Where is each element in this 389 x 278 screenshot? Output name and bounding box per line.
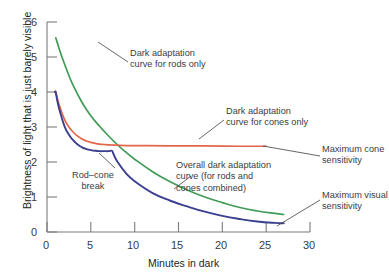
x-tick-label-20: 20 xyxy=(215,239,227,251)
annotation-rod-cone-break: Rod–cone break xyxy=(72,170,114,193)
dark-adaptation-chart: 6 5 4 3 2 1 0 0 5 10 15 20 25 30 Brightn… xyxy=(0,0,389,278)
x-tick-label-25: 25 xyxy=(259,239,271,251)
leader-max-visual xyxy=(277,200,320,226)
y-axis-ticks xyxy=(47,22,57,232)
annotation-overall-curve: Overall dark adaptation curve (for rods … xyxy=(176,160,271,194)
x-tick-label-0: 0 xyxy=(43,239,49,251)
annotation-maximum-cone-sensitivity: Maximum cone sensitivity xyxy=(322,144,384,167)
leader-max-cone xyxy=(263,146,320,156)
x-tick-label-30: 30 xyxy=(303,239,315,251)
annotation-maximum-visual-sensitivity: Maximum visual sensitivity xyxy=(322,190,388,213)
y-tick-label-0: 0 xyxy=(31,226,37,238)
chart-canvas xyxy=(0,0,389,278)
x-tick-label-15: 15 xyxy=(171,239,183,251)
x-axis-title: Minutes in dark xyxy=(148,257,219,269)
leader-cones xyxy=(199,120,224,139)
leader-rod-cone-break xyxy=(99,153,115,168)
leader-rods xyxy=(98,42,128,62)
x-tick-label-5: 5 xyxy=(87,239,93,251)
annotation-cones-only: Dark adaptation curve for cones only xyxy=(226,106,308,129)
x-tick-label-10: 10 xyxy=(127,239,139,251)
annotation-rods-only: Dark adaptation curve for rods only xyxy=(130,48,206,71)
y-axis-title: Brightness of light that is just barely … xyxy=(21,39,33,209)
